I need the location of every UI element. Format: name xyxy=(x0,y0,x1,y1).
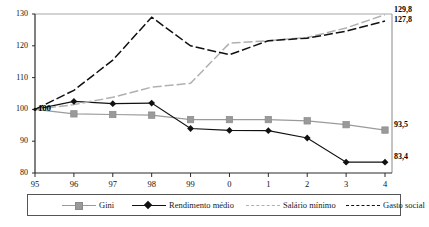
data-point-marker xyxy=(226,127,233,134)
series-end-label: 127,8 xyxy=(394,16,412,24)
data-point-marker xyxy=(110,111,116,117)
series-end-label: 83,4 xyxy=(394,153,408,161)
series-line xyxy=(35,101,385,162)
chart-series-lines xyxy=(35,15,385,163)
data-point-marker xyxy=(343,121,349,127)
legend-label: Salário mínimo xyxy=(283,200,336,210)
chart-tick-marks xyxy=(32,14,385,177)
legend-item-1[interactable]: Gini xyxy=(62,195,114,215)
legend-swatch-icon xyxy=(346,200,380,210)
legend-item-4[interactable]: Gasto social xyxy=(346,195,425,215)
legend-swatch-icon xyxy=(62,200,96,210)
x-tick-label: 4 xyxy=(373,180,397,189)
data-point-marker xyxy=(71,111,77,117)
series-line xyxy=(35,109,385,130)
legend-label: Gini xyxy=(99,200,114,210)
data-point-marker xyxy=(382,159,389,166)
y-tick-label: 120 xyxy=(8,42,28,50)
data-point-marker xyxy=(109,100,116,107)
data-point-marker xyxy=(226,116,232,122)
series-end-label: 129,8 xyxy=(394,6,412,14)
chart-axes xyxy=(35,14,392,173)
x-tick-label: 0 xyxy=(217,180,241,189)
chart-legend: GiniRendimento médioSalário mínimoGasto … xyxy=(27,194,401,216)
data-point-marker xyxy=(304,118,310,124)
legend-swatch-icon xyxy=(246,200,280,210)
legend-marker-icon xyxy=(75,202,83,210)
legend-item-2[interactable]: Rendimento médio xyxy=(132,195,234,215)
x-tick-label: 2 xyxy=(295,180,319,189)
x-tick-label: 99 xyxy=(179,180,203,189)
chart-plot-area xyxy=(0,0,429,227)
data-point-marker xyxy=(304,135,311,142)
x-tick-label: 97 xyxy=(101,180,125,189)
x-tick-label: 96 xyxy=(62,180,86,189)
series-line xyxy=(35,15,385,110)
chart-container: 8090100110120130 959697989901234 93,583,… xyxy=(0,0,429,227)
x-tick-label: 95 xyxy=(23,180,47,189)
data-point-marker xyxy=(187,116,193,122)
y-tick-label: 90 xyxy=(8,137,28,145)
data-point-marker xyxy=(148,100,155,107)
legend-item-3[interactable]: Salário mínimo xyxy=(246,195,336,215)
series-end-label: 93,5 xyxy=(394,121,408,129)
y-tick-label: 100 xyxy=(8,105,28,113)
legend-marker-icon xyxy=(144,201,152,209)
y-tick-label: 80 xyxy=(8,169,28,177)
baseline-value-label: 100 xyxy=(38,104,51,113)
data-point-marker xyxy=(148,112,154,118)
legend-label: Gasto social xyxy=(383,200,425,210)
legend-swatch-icon xyxy=(132,200,166,210)
x-tick-label: 98 xyxy=(140,180,164,189)
legend-label: Rendimento médio xyxy=(169,200,234,210)
y-tick-label: 130 xyxy=(8,10,28,18)
data-point-marker xyxy=(187,125,194,132)
data-point-marker xyxy=(343,159,350,166)
data-point-marker xyxy=(382,127,388,133)
y-tick-label: 110 xyxy=(8,74,28,82)
x-tick-label: 1 xyxy=(256,180,280,189)
x-tick-label: 3 xyxy=(334,180,358,189)
data-point-marker xyxy=(265,127,272,134)
data-point-marker xyxy=(265,116,271,122)
